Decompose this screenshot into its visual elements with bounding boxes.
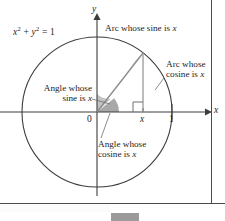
- radius-segment: [97, 53, 143, 112]
- annotation-angle-cosine-line1: Angle whose: [98, 139, 146, 149]
- annotation-arc-cosine: Arc whosecosine is x: [166, 60, 206, 80]
- annotation-angle-sine-line1: Angle whose: [44, 83, 92, 93]
- page-tab-marker: [111, 213, 139, 221]
- annotation-angle-sine-var: x: [88, 93, 92, 103]
- annotation-arc-cosine-line2: cosine is: [166, 69, 200, 79]
- right-angle-marker: [133, 102, 143, 112]
- annotation-angle-cosine-line2: cosine is: [98, 149, 132, 159]
- page-bottom-rule: [0, 203, 225, 204]
- annotation-arc-sine: Arc whose sine is x: [105, 24, 176, 34]
- annotation-angle-sine-line2: sine is: [62, 93, 88, 103]
- equation-equals: = 1: [39, 27, 55, 37]
- leader-arc-cosine: [155, 78, 164, 90]
- page-right-rule: [211, 0, 212, 204]
- annotation-angle-cosine: Angle whosecosine is x: [98, 140, 146, 160]
- annotation-angle-cosine-var: x: [132, 149, 136, 159]
- y-axis-label: y: [92, 4, 96, 14]
- annotation-angle-sine: Angle whosesine is x: [26, 84, 92, 104]
- annotation-arc-cosine-line1: Arc whose: [166, 59, 206, 69]
- equation-plus: +: [21, 27, 32, 37]
- tick-label-one: 1: [169, 114, 174, 124]
- page-band: [0, 205, 110, 212]
- leader-angle-cosine: [101, 113, 110, 138]
- tick-label-x: x: [140, 114, 144, 124]
- x-axis-label: x: [214, 105, 218, 115]
- unit-circle-figure: x2 + y2 = 1 y x 0 x 1 Arc whose sine is …: [0, 0, 225, 221]
- annotation-arc-sine-var: x: [172, 23, 176, 33]
- annotation-arc-cosine-var: x: [200, 69, 204, 79]
- tick-label-origin: 0: [87, 114, 92, 124]
- annotation-arc-sine-text: Arc whose sine is: [105, 23, 172, 33]
- circle-equation-label: x2 + y2 = 1: [13, 27, 55, 37]
